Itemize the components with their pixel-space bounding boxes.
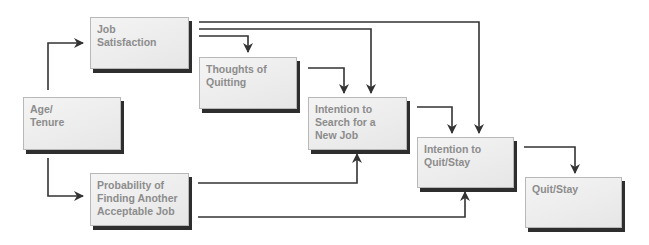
node-label: Intention to Quit/Stay bbox=[424, 143, 507, 169]
arrow-thoughts-to-intention-search bbox=[308, 68, 344, 93]
node-age-tenure: Age/ Tenure bbox=[23, 97, 121, 150]
node-label: Age/ Tenure bbox=[30, 103, 114, 129]
arrow-intention-quit-to-quit-stay bbox=[524, 147, 575, 173]
node-label: Job Satisfaction bbox=[97, 23, 182, 49]
arrow-age-to-probability bbox=[48, 158, 83, 196]
turnover-model-diagram: Job Satisfaction Thoughts of Quitting Ag… bbox=[0, 0, 649, 245]
arrow-intention-search-to-intention-quit bbox=[417, 107, 452, 133]
node-intention-to-quit: Intention to Quit/Stay bbox=[417, 137, 514, 188]
node-quit-stay: Quit/Stay bbox=[525, 177, 622, 228]
node-label: Thoughts of Quitting bbox=[206, 63, 290, 89]
arrow-probability-to-intention-search bbox=[198, 154, 357, 183]
node-intention-to-search: Intention to Search for a New Job bbox=[308, 97, 407, 150]
node-thoughts-of-quitting: Thoughts of Quitting bbox=[199, 57, 297, 109]
node-label: Quit/Stay bbox=[532, 183, 615, 196]
node-label: Intention to Search for a New Job bbox=[315, 103, 400, 142]
arrow-job-satisfaction-to-thoughts bbox=[199, 36, 248, 52]
node-job-satisfaction: Job Satisfaction bbox=[90, 17, 189, 69]
arrow-probability-to-intention-quit bbox=[198, 192, 465, 217]
arrow-age-to-job-satisfaction bbox=[48, 43, 83, 90]
node-probability-finding-job: Probability of Finding Another Acceptabl… bbox=[90, 173, 189, 226]
node-label: Probability of Finding Another Acceptabl… bbox=[97, 179, 182, 218]
